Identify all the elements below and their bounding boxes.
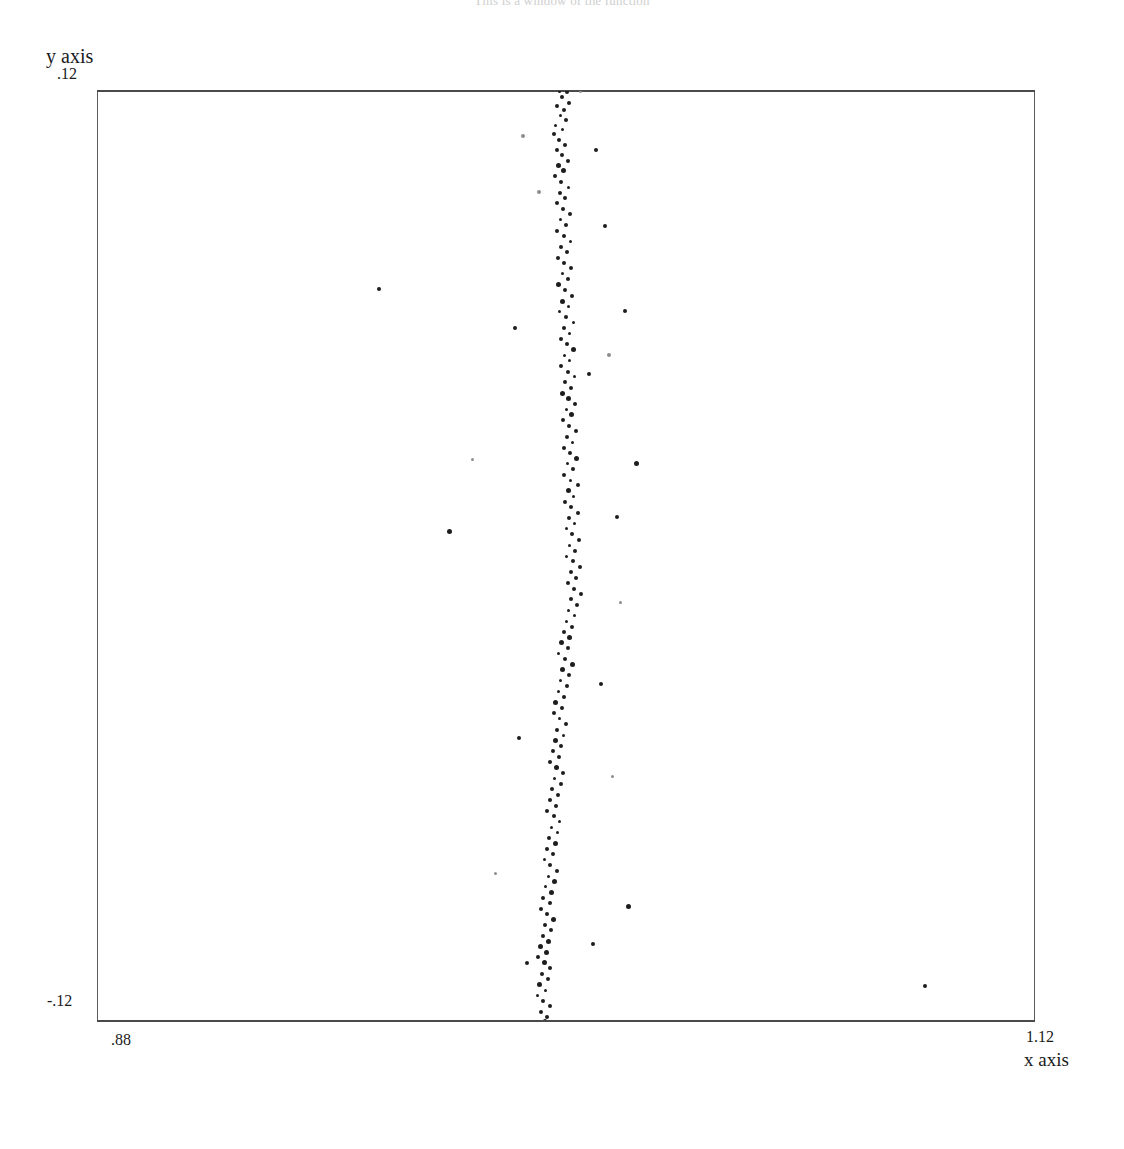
scatter-data-point	[545, 847, 549, 851]
scatter-data-point	[557, 690, 560, 693]
scatter-data-point	[562, 630, 566, 634]
scatter-data-point	[573, 402, 577, 406]
scatter-data-point	[554, 804, 558, 808]
scatter-data-point	[542, 960, 547, 965]
scatter-data-point	[573, 375, 576, 378]
scatter-data-point	[568, 451, 572, 455]
scatter-data-point	[569, 479, 572, 482]
scatter-data-point	[565, 91, 569, 94]
scatter-data-point	[562, 473, 566, 477]
y-axis-max-tick-label: .12	[57, 66, 77, 82]
scatter-data-point	[572, 321, 575, 324]
scatter-data-point	[573, 522, 576, 525]
scatter-data-point	[565, 555, 568, 558]
scatter-data-point	[569, 597, 573, 601]
scatter-data-point	[567, 516, 571, 520]
scatter-data-point	[562, 234, 566, 238]
scatter-data-point	[569, 240, 572, 243]
scatter-data-point	[556, 163, 561, 168]
scatter-data-point	[566, 159, 570, 163]
scatter-data-point	[559, 180, 563, 184]
scatter-outlier-point	[517, 736, 521, 740]
scatter-data-point	[567, 101, 571, 105]
scatter-data-point	[559, 744, 563, 748]
scatter-data-point	[555, 148, 559, 152]
scatter-data-point	[560, 391, 565, 396]
scatter-data-point	[561, 418, 565, 422]
scatter-data-point	[548, 901, 552, 905]
scatter-data-point	[548, 863, 552, 867]
scatter-data-point	[571, 347, 576, 352]
y-axis-caption: y axis	[46, 46, 93, 66]
scatter-data-point	[552, 814, 556, 818]
scatter-data-point	[568, 544, 571, 547]
scatter-data-point	[558, 310, 561, 313]
scatter-data-point	[559, 245, 563, 249]
scatter-data-point	[562, 261, 566, 265]
scatter-outlier-point	[603, 224, 607, 228]
scatter-data-point	[553, 841, 558, 846]
scatter-data-point	[579, 592, 583, 596]
scatter-data-point	[578, 565, 582, 569]
scatter-data-point	[565, 435, 569, 439]
scatter-data-point	[546, 977, 550, 981]
scatter-outlier-point	[599, 682, 603, 686]
scatter-data-point	[559, 218, 562, 221]
scatter-data-point	[555, 201, 559, 205]
scatter-plot-area	[98, 91, 1034, 1021]
scatter-data-point	[547, 875, 550, 878]
scatter-data-point	[566, 646, 570, 650]
scatter-data-point	[577, 538, 581, 542]
scatter-data-point	[545, 912, 549, 916]
scatter-outlier-point	[525, 961, 529, 965]
scatter-data-point	[559, 114, 562, 117]
scatter-data-point	[557, 652, 560, 655]
scatter-data-point	[550, 826, 553, 829]
scatter-data-point	[574, 576, 578, 580]
scatter-data-point	[570, 662, 575, 667]
scatter-data-point	[553, 174, 557, 178]
scatter-outlier-point	[494, 872, 497, 875]
scatter-data-point	[548, 1004, 552, 1008]
scatter-data-point	[565, 342, 569, 346]
scatter-data-point	[568, 359, 571, 362]
y-axis-min-tick-label: -.12	[47, 993, 72, 1009]
scatter-data-point	[544, 885, 547, 888]
scatter-data-point	[564, 315, 568, 319]
scatter-outlier-point	[626, 904, 631, 909]
scatter-data-point	[561, 207, 565, 211]
scatter-data-point	[563, 143, 567, 147]
scatter-data-point	[569, 266, 573, 270]
scatter-outlier-point	[594, 148, 598, 152]
scatter-data-point	[563, 196, 567, 200]
scatter-data-point	[548, 798, 552, 802]
scatter-outlier-point	[537, 190, 541, 194]
scatter-outlier-point	[377, 287, 381, 291]
scatter-data-point	[539, 1010, 543, 1014]
plot-frame	[97, 90, 1035, 1022]
scatter-data-point	[540, 972, 544, 976]
scatter-data-point	[553, 738, 558, 743]
scatter-data-point	[566, 462, 569, 465]
scatter-data-point	[541, 896, 545, 900]
scatter-data-point	[559, 640, 564, 645]
scatter-data-point	[562, 108, 566, 112]
scatter-data-point	[570, 532, 574, 536]
scatter-data-point	[563, 288, 567, 292]
scatter-data-point	[539, 907, 543, 911]
scatter-outlier-point	[607, 353, 611, 357]
scatter-data-point	[554, 124, 557, 127]
scatter-data-point	[573, 549, 577, 553]
scatter-data-point	[536, 955, 540, 959]
scatter-data-point	[568, 332, 571, 335]
scatter-data-point	[567, 305, 570, 308]
scatter-data-point	[563, 657, 567, 661]
scatter-data-point	[569, 505, 573, 509]
scatter-data-point	[567, 186, 570, 189]
scatter-data-point	[555, 728, 559, 732]
scatter-data-point	[557, 755, 561, 759]
scatter-data-point	[567, 609, 570, 612]
scatter-data-point	[561, 168, 566, 173]
scatter-data-point	[544, 989, 547, 992]
scatter-data-point	[560, 299, 565, 304]
